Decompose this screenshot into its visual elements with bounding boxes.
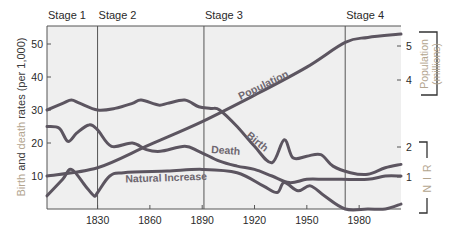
x-tick-label: 1890 — [191, 214, 215, 226]
x-tick-label: 1980 — [347, 214, 371, 226]
stage-label: Stage 2 — [99, 9, 137, 21]
plot-area — [47, 26, 401, 209]
y-tick-label: 40 — [31, 71, 43, 83]
x-tick-label: 1830 — [86, 214, 110, 226]
nir-tick-label: 2 — [406, 141, 412, 153]
y-axis-left-label: Birth and death rates (per 1,000) — [15, 38, 27, 197]
population-label-line2: (millions) — [430, 43, 442, 85]
y-tick-label: 20 — [31, 137, 43, 149]
nir-label: N I R — [421, 164, 433, 193]
nir-tick-label: 1 — [406, 171, 412, 183]
stage-label: Stage 3 — [205, 9, 243, 21]
x-tick-label: 1920 — [243, 214, 267, 226]
x-tick-label: 1950 — [295, 214, 319, 226]
population-label-line1: Population — [418, 39, 430, 89]
y-tick-label: 10 — [31, 170, 43, 182]
pop-tick-label: 4 — [406, 74, 412, 86]
pop-tick-label: 5 — [406, 40, 412, 52]
stage-labels: Stage 1Stage 2Stage 3Stage 4 — [48, 9, 384, 21]
demographic-transition-chart: Stage 1Stage 2Stage 3Stage 4 18301860189… — [0, 0, 454, 240]
y-tick-label: 30 — [31, 104, 43, 116]
stage-label: Stage 1 — [48, 9, 86, 21]
y-tick-label: 50 — [31, 38, 43, 50]
x-tick-label: 1860 — [138, 214, 162, 226]
stage-label: Stage 4 — [346, 9, 384, 21]
series-label: Death — [211, 143, 241, 157]
